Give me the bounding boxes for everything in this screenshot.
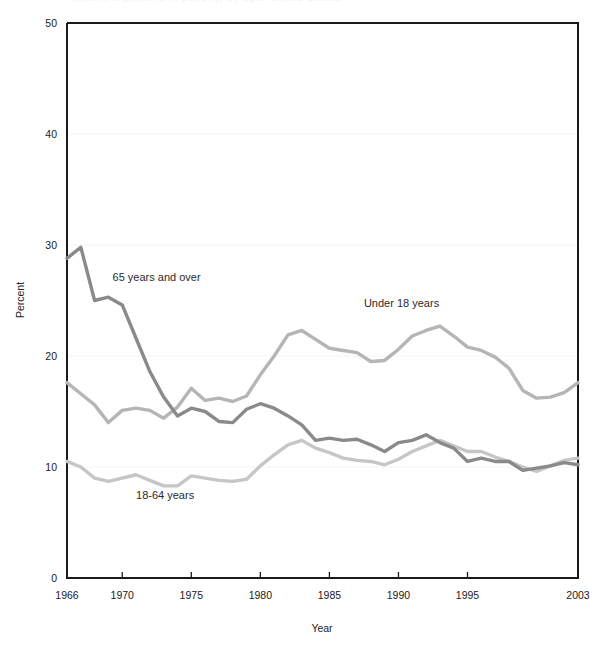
x-ticklabel-1990: 1990: [387, 589, 411, 601]
y-ticklabel-40: 40: [45, 128, 57, 140]
line-chart-canvas: 19661970197519801985199019952003 0102030…: [0, 0, 608, 655]
y-ticklabel-10: 10: [45, 461, 57, 473]
series-line-under-18-years: [67, 326, 578, 423]
y-axis-title: Percent: [14, 282, 26, 318]
x-axis-title: Year: [311, 622, 333, 634]
x-ticklabel-1980: 1980: [249, 589, 273, 601]
data-series-group: [67, 247, 578, 486]
x-ticklabels-group: 19661970197519801985199019952003: [55, 589, 590, 601]
gridlines-group: [67, 23, 578, 467]
x-ticklabel-1985: 1985: [318, 589, 342, 601]
chart-figure: Percent of persons in poverty, by age: U…: [0, 0, 608, 655]
x-ticklabel-1970: 1970: [111, 589, 135, 601]
y-ticklabel-0: 0: [51, 572, 57, 584]
y-ticklabels-group: 01020304050: [45, 17, 57, 584]
series-label-under-18-years: Under 18 years: [364, 297, 440, 309]
x-ticklabel-1995: 1995: [456, 589, 480, 601]
series-label-65-years-and-over: 65 years and over: [113, 271, 201, 283]
x-ticklabel-1966: 1966: [55, 589, 79, 601]
x-ticklabel-1975: 1975: [180, 589, 204, 601]
y-ticklabel-30: 30: [45, 239, 57, 251]
y-ticklabel-20: 20: [45, 350, 57, 362]
y-ticklabel-50: 50: [45, 17, 57, 29]
series-label-18-64-years: 18-64 years: [136, 489, 195, 501]
x-ticklabel-2003: 2003: [566, 589, 590, 601]
